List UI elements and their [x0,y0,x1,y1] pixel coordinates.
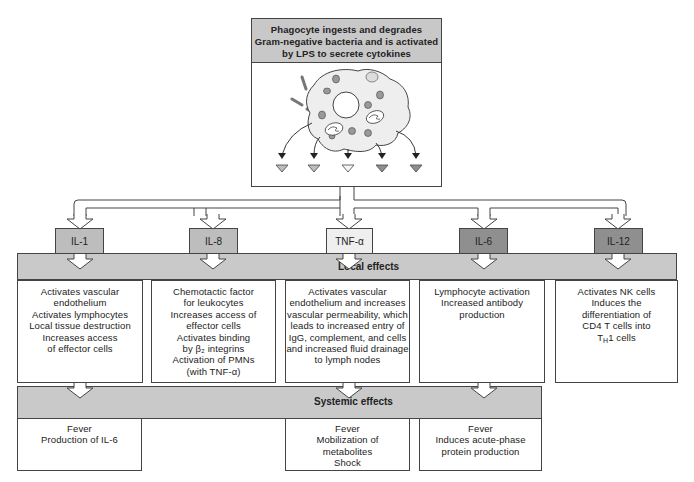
arrow-layer [0,0,694,482]
arrow-to-systemic-tnf-alpha [336,383,362,398]
arrow-to-local-4 [605,254,631,269]
arrow-into-cytokine-il-12 [605,214,631,229]
arrow-into-cytokine-il-6-tnf [336,214,362,229]
arrow-to-systemic-il-1 [67,383,93,398]
arrow-to-local-2 [336,254,362,269]
arrow-to-local-1 [200,254,226,269]
arrow-to-local-3 [471,254,497,269]
arrow-into-cytokine-il-6 [471,214,497,229]
arrow-into-cytokine-il-8 [200,214,226,229]
arrow-to-local-0 [67,254,93,269]
arrow-into-cytokine-il-1 [67,214,93,229]
arrow-to-systemic-il-6 [471,383,497,398]
